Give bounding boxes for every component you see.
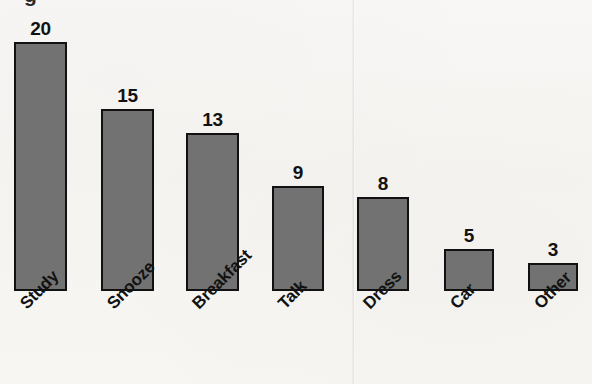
bar-group: 3Other	[0, 0, 592, 384]
plot-area: 20Study15Snooze13Breakfast9Talk8Dress5Ca…	[0, 0, 592, 384]
bar-chart-screenshot: g 20Study15Snooze13Breakfast9Talk8Dress5…	[0, 0, 592, 384]
bar-value-label: 3	[528, 240, 578, 259]
